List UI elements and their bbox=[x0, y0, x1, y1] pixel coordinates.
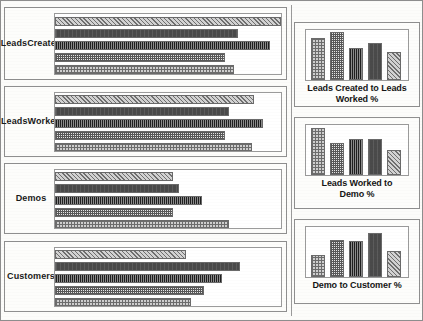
funnel-panel-label-line1: Customers bbox=[7, 271, 55, 282]
ratio-caption-line1: Leads Worked to bbox=[322, 178, 393, 188]
bar-group bbox=[55, 14, 281, 74]
ratio-caption-line1: Leads Created to Leads bbox=[307, 83, 406, 93]
funnel-bar bbox=[55, 107, 229, 116]
funnel-bar bbox=[55, 274, 222, 283]
ratio-bar bbox=[368, 43, 382, 80]
ratio-panel-caption: Leads Created to LeadsWorked % bbox=[297, 83, 417, 104]
ratio-bar bbox=[387, 251, 401, 277]
column-divider bbox=[291, 5, 292, 316]
funnel-bar bbox=[55, 17, 281, 26]
funnel-plot-area bbox=[54, 169, 282, 229]
bar-group bbox=[55, 93, 281, 151]
ratio-caption-line2: Demo % bbox=[340, 189, 375, 199]
funnel-panel-label: Customers bbox=[8, 242, 54, 311]
ratio-bar bbox=[330, 240, 344, 277]
ratio-panel-caption: Leads Worked toDemo % bbox=[297, 178, 417, 199]
funnel-bar bbox=[55, 119, 263, 128]
ratio-bar bbox=[311, 128, 325, 175]
ratio-panel: Leads Created to LeadsWorked % bbox=[294, 22, 420, 107]
funnel-chart-figure: LeadsCreatedLeadsWorkedDemosCustomers Le… bbox=[0, 0, 423, 321]
ratio-bar bbox=[349, 241, 363, 277]
ratio-bar bbox=[349, 48, 363, 80]
bar-group bbox=[55, 248, 281, 306]
ratio-panels-column: Leads Created to LeadsWorked %Leads Work… bbox=[294, 4, 421, 317]
ratio-plot-area bbox=[305, 226, 409, 278]
funnel-panel: Customers bbox=[4, 241, 287, 312]
ratio-bar bbox=[330, 32, 344, 80]
funnel-bar bbox=[55, 184, 179, 193]
funnel-panel: LeadsCreated bbox=[4, 7, 287, 80]
funnel-panel-label: LeadsCreated bbox=[8, 8, 54, 79]
column-group bbox=[309, 30, 405, 80]
funnel-bar bbox=[55, 95, 254, 104]
funnel-bar bbox=[55, 53, 225, 62]
funnel-panel: Demos bbox=[4, 163, 287, 234]
ratio-panel-caption: Demo to Customer % bbox=[297, 280, 417, 291]
ratio-caption-line1: Demo to Customer % bbox=[312, 280, 401, 290]
funnel-bar bbox=[55, 250, 186, 259]
ratio-bar bbox=[311, 38, 325, 80]
funnel-bar bbox=[55, 172, 173, 181]
funnel-bar bbox=[55, 286, 204, 295]
ratio-bar bbox=[330, 143, 344, 175]
ratio-bar bbox=[387, 52, 401, 80]
funnel-panel-label: LeadsWorked bbox=[8, 87, 54, 156]
funnel-bar bbox=[55, 131, 225, 140]
funnel-bar bbox=[55, 65, 234, 74]
funnel-panel-label: Demos bbox=[8, 164, 54, 233]
column-group bbox=[309, 125, 405, 175]
bar-group bbox=[55, 170, 281, 228]
funnel-panel-label-line1: Demos bbox=[16, 193, 47, 204]
ratio-plot-area bbox=[305, 29, 409, 81]
funnel-bar bbox=[55, 143, 252, 152]
funnel-plot-area bbox=[54, 247, 282, 307]
ratio-bar bbox=[387, 150, 401, 175]
funnel-panel: LeadsWorked bbox=[4, 86, 287, 157]
ratio-bar bbox=[311, 255, 325, 277]
ratio-caption-line2: Worked % bbox=[336, 94, 379, 104]
ratio-panel: Demo to Customer % bbox=[294, 219, 420, 304]
funnel-plot-area bbox=[54, 92, 282, 152]
funnel-plot-area bbox=[54, 13, 282, 75]
funnel-bar bbox=[55, 220, 229, 229]
funnel-bar bbox=[55, 29, 238, 38]
column-group bbox=[309, 227, 405, 277]
funnel-bar bbox=[55, 298, 191, 307]
funnel-bar bbox=[55, 196, 202, 205]
ratio-bar bbox=[368, 139, 382, 175]
ratio-bar bbox=[368, 233, 382, 277]
funnel-panel-label-line1: Leads bbox=[1, 38, 28, 49]
funnel-bar bbox=[55, 208, 173, 217]
ratio-plot-area bbox=[305, 124, 409, 176]
ratio-panel: Leads Worked toDemo % bbox=[294, 117, 420, 209]
funnel-panel-label-line1: Leads bbox=[1, 116, 28, 127]
funnel-bar bbox=[55, 262, 240, 271]
ratio-bar bbox=[349, 139, 363, 175]
funnel-bar bbox=[55, 41, 270, 50]
funnel-panels-column: LeadsCreatedLeadsWorkedDemosCustomers bbox=[4, 4, 289, 317]
